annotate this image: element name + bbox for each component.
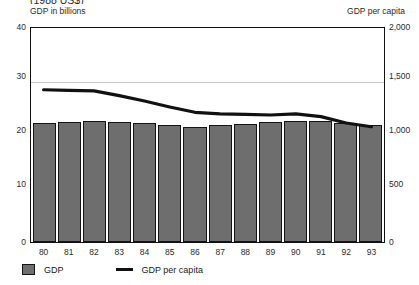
bar-cell (283, 28, 308, 242)
x-label-84: 84 (132, 246, 157, 260)
x-label-80: 80 (31, 246, 56, 260)
x-label-81: 81 (56, 246, 81, 260)
bar-83 (108, 122, 131, 242)
bar-cell (333, 28, 358, 242)
ytick-left-30: 30 (2, 72, 26, 81)
x-label-90: 90 (283, 246, 308, 260)
chart-legend: GDP GDP per capita (22, 264, 203, 275)
bar-86 (183, 127, 206, 242)
x-label-87: 87 (208, 246, 233, 260)
ytick-right-0: 0 (389, 238, 419, 247)
x-axis-labels: 8081828384858687888990919293 (30, 246, 385, 260)
bar-80 (33, 123, 56, 242)
bar-cell (233, 28, 258, 242)
bar-cell (258, 28, 283, 242)
bar-87 (209, 125, 232, 242)
bar-cell (82, 28, 107, 242)
legend-label-gdp-per-capita: GDP per capita (142, 265, 203, 275)
bar-90 (284, 121, 307, 242)
legend-swatch-line-icon (116, 268, 133, 272)
x-label-91: 91 (308, 246, 333, 260)
ytick-right-2000: 2,000 (389, 23, 419, 32)
bar-cell (32, 28, 57, 242)
bar-92 (334, 123, 357, 242)
bar-93 (359, 125, 382, 242)
plot-inner (31, 28, 384, 242)
chart-title-clipped: (1988 US$) (30, 0, 84, 4)
bar-series-gdp (31, 28, 384, 242)
ytick-right-1500: 1,500 (389, 72, 419, 81)
x-label-86: 86 (182, 246, 207, 260)
x-label-83: 83 (107, 246, 132, 260)
bar-cell (57, 28, 82, 242)
x-label-88: 88 (233, 246, 258, 260)
ytick-left-0: 0 (2, 238, 26, 247)
bar-88 (234, 124, 257, 242)
left-axis-caption: GDP in billions (30, 6, 86, 16)
right-axis-caption: GDP per capita (347, 6, 405, 16)
bar-85 (158, 125, 181, 242)
x-label-89: 89 (258, 246, 283, 260)
bar-cell (208, 28, 233, 242)
bar-cell (132, 28, 157, 242)
bar-81 (58, 122, 81, 242)
bar-cell (358, 28, 383, 242)
bar-91 (309, 121, 332, 242)
ytick-left-40: 40 (2, 23, 26, 32)
legend-label-gdp: GDP (44, 265, 64, 275)
bar-89 (259, 122, 282, 242)
x-label-82: 82 (81, 246, 106, 260)
gdp-chart-figure: (1988 US$) GDP in billions GDP per capit… (0, 0, 419, 285)
legend-item-gdp: GDP (22, 264, 64, 275)
plot-area (30, 27, 385, 243)
bar-cell (107, 28, 132, 242)
legend-item-gdp-per-capita: GDP per capita (116, 265, 203, 275)
x-label-93: 93 (359, 246, 384, 260)
bar-cell (157, 28, 182, 242)
ytick-right-500: 500 (389, 180, 419, 189)
x-label-92: 92 (334, 246, 359, 260)
ytick-left-10: 10 (2, 180, 26, 189)
ytick-left-20: 20 (2, 126, 26, 135)
legend-swatch-square-icon (22, 264, 35, 275)
bar-82 (83, 121, 106, 243)
bar-cell (308, 28, 333, 242)
bar-cell (182, 28, 207, 242)
x-label-85: 85 (157, 246, 182, 260)
bar-84 (133, 123, 156, 242)
ytick-right-1000: 1,000 (389, 126, 419, 135)
